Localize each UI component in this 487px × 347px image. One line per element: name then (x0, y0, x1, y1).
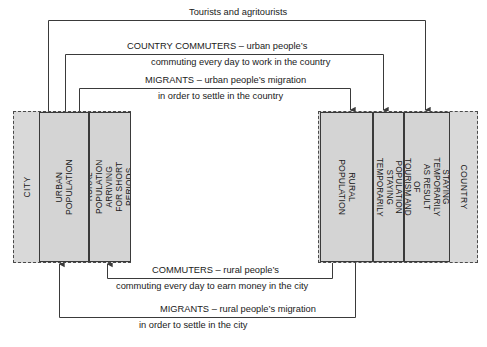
flow-label-migrants-rural: MIGRANTS – rural people’s migration in o… (160, 301, 316, 333)
block-urban-population[interactable]: URBAN POPULATION (39, 112, 89, 262)
flow-label-migrants-urban: MIGRANTS – urban people’s migration in o… (145, 72, 306, 104)
flow-label-tourists-line1: Tourists and agritourists (189, 4, 287, 20)
block-rural-population-label: RURAL POPULATION (336, 159, 356, 215)
flow-label-commuters-rural-line1: COMMUTERS – rural people’s (152, 262, 308, 278)
region-label-city-text: CITY (22, 176, 32, 197)
block-urban-population-temporary-work-label: URBAN POPULATION STAYING TEMPORARILY (WO… (373, 157, 404, 216)
flow-label-migrants-urban-line1: MIGRANTS – urban people’s migration (145, 72, 306, 88)
region-label-country-text: COUNTRY (459, 164, 469, 209)
block-urban-population-temporary-work[interactable]: URBAN POPULATION STAYING TEMPORARILY (WO… (373, 112, 404, 262)
block-population-tourism-agritourism[interactable]: POPULATION STAYING TEMPORARILY AS RESULT… (404, 112, 450, 262)
flow-label-tourists: Tourists and agritourists (189, 4, 287, 20)
flow-label-migrants-rural-line1: MIGRANTS – rural people’s migration (160, 301, 316, 317)
flow-label-commuters-rural: COMMUTERS – rural people’s commuting eve… (152, 262, 308, 294)
flow-label-country-commuters-line2: commuting every day to work in the count… (127, 54, 330, 70)
block-urban-population-label: URBAN POPULATION (54, 159, 74, 215)
region-label-city: CITY (14, 112, 39, 262)
flow-label-country-commuters: COUNTRY COMMUTERS – urban people’s commu… (127, 38, 330, 70)
block-rural-population-short-periods-label: RURAL POPULATION ARRIVING FOR SHORT PERI… (89, 160, 131, 214)
block-rural-population[interactable]: RURAL POPULATION (320, 112, 373, 262)
flow-label-country-commuters-line1: COUNTRY COMMUTERS – urban people’s (127, 38, 330, 54)
diagram-canvas: CITY URBAN POPULATION RURAL POPULATION A… (0, 0, 487, 347)
flow-label-migrants-rural-line2: in order to settle in the city (139, 317, 316, 333)
block-rural-population-short-periods[interactable]: RURAL POPULATION ARRIVING FOR SHORT PERI… (89, 112, 131, 262)
flow-label-commuters-rural-line2: commuting every day to earn money in the… (116, 278, 308, 294)
block-population-tourism-agritourism-label: POPULATION STAYING TEMPORARILY AS RESULT… (404, 157, 450, 216)
flow-label-migrants-urban-line2: in order to settle in the country (145, 88, 306, 104)
region-label-country: COUNTRY (450, 112, 477, 262)
